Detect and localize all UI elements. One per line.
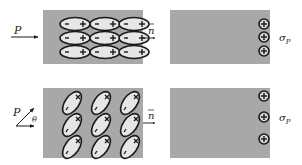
surface-charge-label: σP: [279, 112, 291, 126]
dipole-grid: [60, 18, 149, 59]
angle-label: θ: [32, 115, 37, 124]
surface-slab: [170, 88, 270, 158]
surface-charge-label: σP: [279, 32, 291, 46]
normal-label: n: [148, 25, 154, 36]
bottom-right-panel: σP: [170, 88, 291, 158]
surface-charges: [259, 19, 269, 56]
top-right-panel: σP: [170, 10, 291, 64]
polarization-label: P: [13, 24, 22, 37]
polarization-diagram: P: [0, 0, 302, 165]
polarization-label: P: [12, 106, 21, 119]
top-left-panel: P: [11, 10, 155, 64]
surface-charges: [259, 91, 269, 144]
bottom-left-panel: P θ n: [12, 88, 155, 162]
dipole-grid: [59, 88, 143, 161]
surface-slab: [170, 10, 270, 64]
normal-label: n: [148, 110, 154, 121]
